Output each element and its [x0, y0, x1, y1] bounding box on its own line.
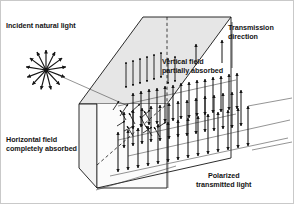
- slab-front-face: [79, 104, 97, 188]
- polarization-diagram: .st { fill:none; stroke:#141414; stroke-…: [0, 0, 294, 204]
- label-transmission-direction: Transmission direction: [228, 24, 274, 41]
- label-transmission-line2: direction: [228, 33, 274, 42]
- label-incident-text: Incident natural light: [6, 21, 76, 30]
- unpolarized-light-burst: [26, 50, 66, 89]
- label-vertical-line2: partially absorbed: [162, 67, 223, 76]
- label-horizontal-field: Horizontal field completely absorbed: [6, 136, 77, 153]
- label-incident-natural-light: Incident natural light: [6, 22, 76, 31]
- beam-edge-rays: [248, 98, 292, 150]
- label-vertical-field: Vertical field partially absorbed: [162, 58, 223, 75]
- label-polarized-transmitted-light: Polarized transmitted light: [196, 172, 251, 189]
- label-horizontal-line2: completely absorbed: [6, 145, 77, 154]
- label-polarized-line2: transmitted light: [196, 181, 251, 190]
- polarizing-slab: [79, 17, 231, 188]
